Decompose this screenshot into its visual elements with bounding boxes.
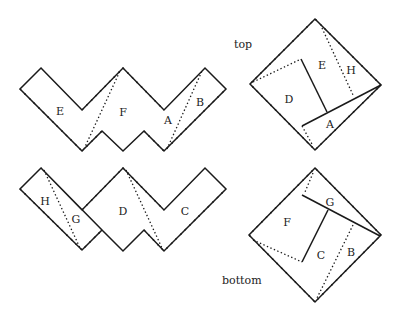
bottom-strip-fold-left	[44, 170, 80, 248]
top-square: E H D A	[250, 19, 381, 150]
bottom-strip-hatch-right	[144, 189, 226, 251]
bottom-strip-hatch-mid	[82, 168, 164, 210]
top-strip-fold-right	[167, 71, 202, 149]
folding-diagram: E F A B H G D C E H D A	[0, 0, 399, 319]
label-H: H	[346, 64, 356, 77]
bottom-square-edge-1	[302, 195, 380, 236]
label-D: D	[285, 93, 294, 106]
label-A: A	[163, 114, 173, 127]
top-strip-hatch-mid	[82, 68, 164, 110]
top-square-edge-2	[302, 85, 381, 126]
label-B: B	[196, 96, 204, 109]
label-F: F	[283, 216, 291, 229]
bottom-strip: H G D C	[20, 168, 226, 251]
top-square-hatch	[250, 19, 381, 150]
top-square-fold-2	[322, 28, 353, 95]
label-E: E	[56, 105, 64, 118]
label-D: D	[119, 205, 128, 218]
bottom-strip-hatch-left	[20, 189, 102, 250]
bottom-square-fold-1	[253, 240, 302, 262]
bottom-square-fold-3	[305, 173, 313, 192]
label-H: H	[40, 195, 50, 208]
label-G: G	[326, 196, 335, 209]
label-G: G	[72, 213, 81, 226]
label-B: B	[347, 246, 355, 259]
top-strip-hatch-right	[144, 89, 226, 151]
label-A: A	[325, 118, 335, 131]
bottom-square: G F C B	[249, 168, 381, 302]
caption-top: top	[234, 38, 252, 51]
bottom-strip-fold-right	[126, 170, 162, 248]
top-strip-fold-left	[84, 71, 120, 149]
top-strip: E F A B	[20, 68, 226, 151]
label-C: C	[317, 249, 325, 262]
top-square-outline	[250, 19, 381, 150]
label-E: E	[318, 59, 326, 72]
caption-bottom: bottom	[222, 274, 262, 287]
label-F: F	[119, 106, 127, 119]
label-C: C	[181, 205, 189, 218]
top-square-fold-1	[253, 59, 301, 82]
